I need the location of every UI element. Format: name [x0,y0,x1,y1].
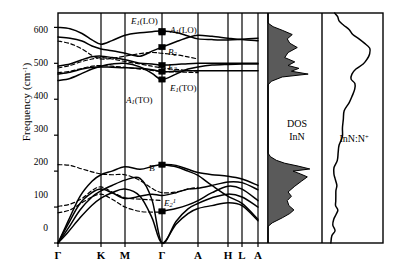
zone-center-marker-a1lo [159,30,165,35]
branch-ac-dash-2 [58,187,162,206]
zone-center-marker-bupperacousticlike [159,162,165,167]
dos-curve-inn [268,13,310,243]
zone-center-marker-a1to [159,77,165,82]
zone-center-marker-e1to [159,69,165,74]
raman-spectrum-inn-n-implanted [331,13,370,243]
phonon-dispersion-figure: Frequency (cm-1) 600 500 400 300 200 100… [0,0,395,273]
zone-center-marker-b2 [159,45,165,50]
zone-center-marker-e2 [159,63,165,68]
branch-opt-dash-1 [58,41,198,59]
zone-center-marker-e21low [159,209,165,214]
plot-frame [58,13,383,243]
plot-canvas [0,0,395,273]
